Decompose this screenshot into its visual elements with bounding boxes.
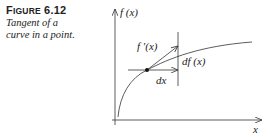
tangent-point — [145, 68, 149, 72]
dx-label: dx — [156, 74, 167, 86]
y-axis-label: f (x) — [120, 6, 138, 19]
tangent-label: f ′(x) — [137, 40, 158, 53]
df-label: df (x) — [182, 55, 206, 68]
x-axis-label: x — [252, 123, 258, 135]
tangent-diagram: f (x) x f ′(x) dx df (x) — [0, 0, 270, 137]
curve — [118, 42, 252, 117]
